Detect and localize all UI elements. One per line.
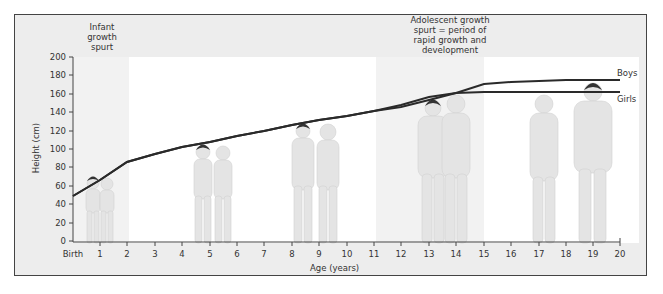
- figure-illustrations: [86, 83, 612, 243]
- infant-girl-figure: [100, 178, 114, 243]
- child-boy-figure-age5: [194, 145, 212, 244]
- child-girl-figure-age5: [214, 146, 232, 243]
- chart-svg: [0, 0, 663, 294]
- adult-woman-figure: [530, 95, 558, 243]
- adult-man-figure: [574, 83, 612, 243]
- adolescent-girl-figure: [442, 95, 470, 243]
- child-boy-figure-age8: [292, 124, 314, 244]
- y-ticks: [69, 57, 73, 241]
- child-girl-figure-age9: [317, 124, 339, 243]
